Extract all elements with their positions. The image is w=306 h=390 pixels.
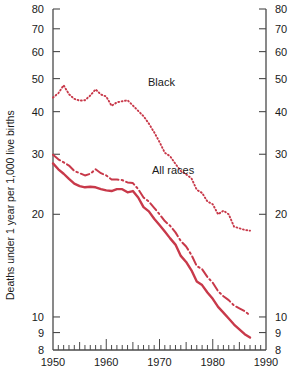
y-tick-label-right: 60	[275, 46, 287, 58]
y-tick-label-left: 30	[32, 148, 44, 160]
y-tick-label-right: 40	[275, 106, 287, 118]
y-tick-label-left: 9	[38, 327, 44, 339]
y-tick-label-left: 80	[32, 3, 44, 15]
x-tick-label: 1960	[94, 356, 118, 368]
y-axis-title: Deaths under 1 year per 1,000 live birth…	[4, 110, 16, 300]
y-tick-label-right: 9	[275, 327, 281, 339]
chart-background	[0, 0, 306, 390]
x-tick-label: 1970	[147, 356, 171, 368]
y-tick-label-left: 50	[32, 73, 44, 85]
y-tick-label-right: 10	[275, 311, 287, 323]
y-tick-label-left: 10	[32, 311, 44, 323]
y-tick-label-left: 8	[38, 344, 44, 356]
y-tick-label-left: 40	[32, 106, 44, 118]
y-tick-label-right: 50	[275, 73, 287, 85]
series-annotation-black: Black	[148, 76, 175, 88]
y-tick-label-left: 20	[32, 208, 44, 220]
y-tick-label-right: 30	[275, 148, 287, 160]
x-tick-label: 1950	[41, 356, 65, 368]
series-annotation-all-races: All races	[152, 164, 195, 176]
y-tick-label-left: 70	[32, 23, 44, 35]
y-tick-label-right: 80	[275, 3, 287, 15]
x-tick-label: 1980	[201, 356, 225, 368]
y-tick-label-left: 60	[32, 46, 44, 58]
y-tick-label-right: 8	[275, 344, 281, 356]
x-tick-label: 1990	[254, 356, 278, 368]
y-tick-label-right: 20	[275, 208, 287, 220]
chart-canvas: 8899101020203030404050506060707080801950…	[0, 0, 306, 390]
infant-mortality-chart: 8899101020203030404050506060707080801950…	[0, 0, 306, 390]
y-tick-label-right: 70	[275, 23, 287, 35]
